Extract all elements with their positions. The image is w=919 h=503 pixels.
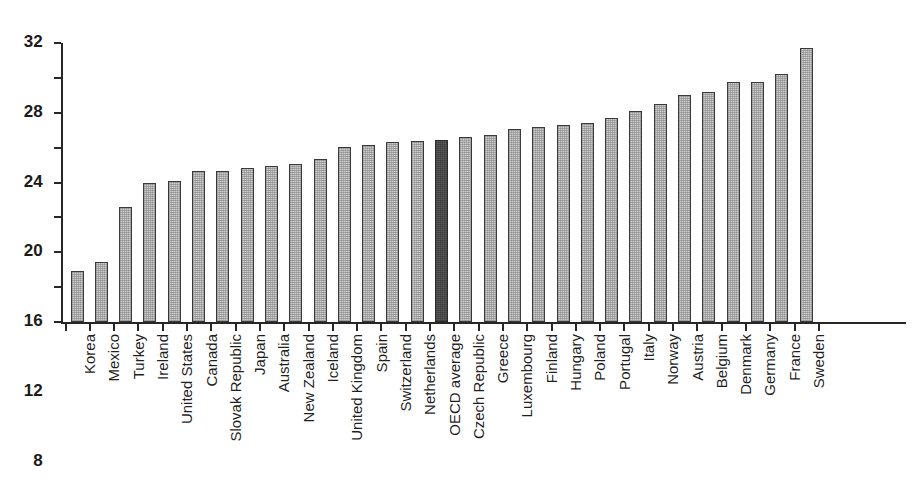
x-axis-tick	[623, 324, 625, 331]
bar	[800, 48, 813, 322]
x-axis-category-label: Luxembourg	[519, 334, 534, 417]
x-axis-tick	[186, 324, 188, 331]
y-axis-tick-label: 8	[33, 451, 43, 471]
x-axis-tick	[235, 324, 237, 331]
x-axis-tick	[745, 324, 747, 331]
x-axis-category-label: Slovak Republic	[228, 334, 243, 442]
bar	[314, 159, 327, 322]
x-axis-category-label: Czech Republic	[471, 334, 486, 439]
x-axis-category-label: Greece	[495, 334, 510, 383]
bar	[605, 118, 618, 322]
bar	[265, 166, 278, 322]
bar-chart-figure: 048121620242832 KoreaMexicoTurkeyIreland…	[0, 0, 919, 503]
bar	[289, 164, 302, 322]
bar	[629, 111, 642, 322]
x-axis-category-label: Ireland	[155, 334, 170, 380]
x-axis-category-label: Mexico	[106, 334, 121, 382]
x-axis-category-label: OECD average	[447, 334, 462, 436]
x-axis-tick	[672, 324, 674, 331]
y-axis-tick-label: 28	[24, 102, 43, 122]
plot-area: 048121620242832	[61, 43, 913, 322]
x-axis-category-label: Korea	[82, 334, 97, 374]
bar	[484, 135, 497, 322]
bar	[751, 82, 764, 322]
y-axis-tick-label: 20	[24, 241, 43, 261]
x-axis-category-label: Denmark	[738, 334, 753, 395]
y-axis-tick: 16	[54, 182, 61, 184]
x-axis-tick	[113, 324, 115, 331]
y-axis-tick: 32	[54, 42, 61, 44]
x-axis-tick	[526, 324, 528, 331]
x-axis-tick	[210, 324, 212, 331]
x-axis-category-label: Italy	[641, 334, 656, 362]
bar	[532, 127, 545, 322]
bar	[168, 181, 181, 322]
x-axis-tick	[551, 324, 553, 331]
bar	[581, 123, 594, 322]
x-axis-tick	[696, 324, 698, 331]
y-axis-tick-label: 12	[24, 381, 43, 401]
x-axis-tick	[453, 324, 455, 331]
bar	[362, 145, 375, 322]
bar	[654, 104, 667, 322]
bar	[338, 147, 351, 322]
x-axis-category-label: Hungary	[568, 334, 583, 391]
x-axis-category-label: Austria	[690, 334, 705, 381]
bar	[775, 74, 788, 322]
x-axis-category-label: Japan	[252, 334, 267, 375]
x-axis-tick	[89, 324, 91, 331]
y-axis-tick: 20	[54, 147, 61, 149]
x-axis-category-label: Sweden	[811, 334, 826, 388]
x-axis-category-label: United Kingdom	[349, 334, 364, 441]
x-axis-tick	[478, 324, 480, 331]
bar	[95, 262, 108, 322]
y-axis-tick: 12	[54, 216, 61, 218]
bar	[727, 82, 740, 322]
x-axis-category-label: Germany	[762, 334, 777, 396]
x-axis-category-label: New Zealand	[301, 334, 316, 422]
x-axis-tick	[380, 324, 382, 331]
bar	[119, 207, 132, 322]
x-axis-tick	[575, 324, 577, 331]
bar	[557, 125, 570, 322]
bar	[508, 129, 521, 322]
x-axis-tick	[65, 324, 67, 331]
clipped-header-text	[0, 0, 919, 5]
y-axis-tick-label: 32	[24, 32, 43, 52]
bar	[678, 95, 691, 322]
x-axis-tick	[721, 324, 723, 331]
x-axis-category-label: Turkey	[131, 334, 146, 379]
x-axis-category-label: France	[787, 334, 802, 381]
y-axis-tick-label: 16	[24, 311, 43, 331]
x-axis-category-label: Australia	[276, 334, 291, 392]
y-axis-tick: 0	[54, 321, 61, 323]
x-axis-category-label: Spain	[374, 334, 389, 372]
x-axis-category-label: Norway	[665, 334, 680, 385]
x-axis-tick	[137, 324, 139, 331]
x-axis-tick	[648, 324, 650, 331]
x-axis-tick	[405, 324, 407, 331]
x-axis-tick	[502, 324, 504, 331]
bar	[702, 92, 715, 322]
x-axis-category-label: Belgium	[714, 334, 729, 388]
x-axis-category-label: Poland	[592, 334, 607, 381]
x-axis-tick	[429, 324, 431, 331]
bar	[386, 142, 399, 322]
x-axis-category-label: Finland	[544, 334, 559, 383]
bar	[216, 171, 229, 322]
x-axis-tick	[599, 324, 601, 331]
x-axis-category-label: United States	[179, 334, 194, 424]
bar	[71, 271, 84, 322]
x-axis-tick	[308, 324, 310, 331]
bar	[459, 137, 472, 322]
bar	[143, 183, 156, 322]
x-axis-tick	[356, 324, 358, 331]
x-axis-category-label: Netherlands	[422, 334, 437, 415]
y-axis-tick: 28	[54, 77, 61, 79]
bar	[192, 171, 205, 322]
y-axis-tick: 8	[54, 251, 61, 253]
y-axis-tick: 24	[54, 112, 61, 114]
bar	[411, 141, 424, 322]
x-axis-tick	[794, 324, 796, 331]
x-axis-tick	[332, 324, 334, 331]
